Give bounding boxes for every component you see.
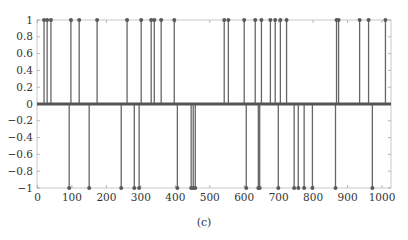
x-tick-label: 300 <box>131 191 151 203</box>
x-tick-label: 200 <box>96 191 116 203</box>
y-tick-label: 1 <box>26 14 33 26</box>
stem-marker <box>268 18 272 22</box>
stem-marker <box>285 18 289 22</box>
stem-marker <box>226 18 230 22</box>
stem-marker <box>302 186 306 190</box>
y-tick-label: 0.4 <box>16 64 33 76</box>
x-tick-label: 600 <box>234 191 254 203</box>
stem-marker <box>253 18 257 22</box>
stem-marker <box>137 186 141 190</box>
stem-marker <box>367 18 371 22</box>
y-tick-label: 0.6 <box>16 47 33 59</box>
stem-marker <box>95 18 99 22</box>
x-tick-label: 0 <box>34 191 41 203</box>
stem-marker <box>49 18 53 22</box>
y-tick-label: −0.6 <box>8 148 34 160</box>
stem-marker <box>69 18 73 22</box>
x-tick-label: 1000 <box>369 191 396 203</box>
stem-marker <box>159 18 163 22</box>
stem-marker <box>152 18 156 22</box>
y-tick-label: 0.2 <box>16 81 33 93</box>
y-tick-label: −1 <box>18 182 33 194</box>
stem-marker <box>292 186 296 190</box>
stem-marker <box>45 18 49 22</box>
x-tick-label: 400 <box>165 191 185 203</box>
stem-marker <box>258 186 262 190</box>
stem-marker <box>77 18 81 22</box>
stem-marker <box>193 186 197 190</box>
stem-marker <box>383 18 387 22</box>
stem-marker <box>310 186 314 190</box>
stem-marker <box>370 186 374 190</box>
stem-marker <box>244 186 248 190</box>
stem-marker <box>333 186 337 190</box>
stem-marker <box>259 18 263 22</box>
stem-marker <box>273 18 277 22</box>
y-tick-label: −0.8 <box>8 165 34 177</box>
x-tick-label: 800 <box>303 191 323 203</box>
stem-marker <box>87 186 91 190</box>
stem-marker <box>67 186 71 190</box>
figure-caption: (c) <box>0 216 408 229</box>
y-tick-label: 0.8 <box>16 30 33 42</box>
x-tick-label: 500 <box>200 191 220 203</box>
stem-marker <box>278 18 282 22</box>
stem-marker <box>296 186 300 190</box>
y-tick-label: 0 <box>26 98 33 110</box>
stem-marker <box>175 186 179 190</box>
stem-marker <box>358 18 362 22</box>
stem-plot: 01002003004005006007008009001000 10.80.6… <box>0 0 408 212</box>
stem-marker <box>222 18 226 22</box>
stem-marker <box>125 18 129 22</box>
x-tick-label: 100 <box>62 191 82 203</box>
stem-marker <box>139 18 143 22</box>
y-tick-label: −0.4 <box>8 131 34 143</box>
x-tick-label: 900 <box>338 191 358 203</box>
x-tick-label: 700 <box>269 191 289 203</box>
stem-marker <box>276 186 280 190</box>
stem-marker <box>172 18 176 22</box>
stem-marker <box>132 186 136 190</box>
stem-marker <box>242 18 246 22</box>
stem-marker <box>119 186 123 190</box>
stem-marker <box>337 18 341 22</box>
y-tick-label: −0.2 <box>8 114 34 126</box>
